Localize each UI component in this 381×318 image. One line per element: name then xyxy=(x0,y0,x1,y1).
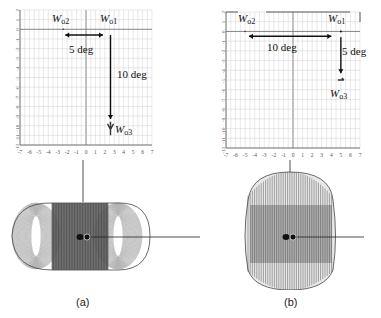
y-tick-label: 2 xyxy=(221,11,226,14)
x-tick-label: -6 xyxy=(27,149,32,155)
y-tick-label: -12 xyxy=(15,144,20,151)
label-5-deg: 5 deg xyxy=(69,43,94,55)
x-tick-label: -3 xyxy=(262,152,267,158)
y-tick-label: -7 xyxy=(15,95,20,100)
center-eye-icon xyxy=(283,234,290,240)
y-tick-label: 0 xyxy=(221,30,226,33)
x-tick-label: -5 xyxy=(37,149,42,155)
label-10-deg: 10 deg xyxy=(117,68,147,80)
y-tick-label: -12 xyxy=(221,147,226,154)
x-tick-label: -2 xyxy=(272,152,277,158)
x-tick-label: 1 xyxy=(301,152,304,158)
center-eye-icon xyxy=(77,234,84,240)
y-tick-label: 0 xyxy=(15,28,20,31)
grid-plot-b: -7-6-5-4-3-2-101234567210-1-2-3-4-5-6-7-… xyxy=(190,0,381,160)
arrowhead-icon xyxy=(108,115,113,119)
y-tick-label: -2 xyxy=(221,49,226,54)
y-tick-label: -3 xyxy=(221,59,226,64)
x-tick-label: -5 xyxy=(243,152,248,158)
label-wo2: Wo2 xyxy=(52,12,69,26)
barrel-center-band xyxy=(250,205,332,263)
label-wo3: Wo3 xyxy=(330,87,347,101)
x-tick-label: -6 xyxy=(233,152,238,158)
panel-a-shape xyxy=(0,160,190,290)
caption-b: (b) xyxy=(284,296,297,308)
y-tick-label: -11 xyxy=(15,134,20,141)
y-tick-label: -9 xyxy=(15,115,20,120)
x-tick-label: 0 xyxy=(292,152,295,158)
x-tick-label: 3 xyxy=(113,149,116,155)
center-eye-icon xyxy=(84,234,90,240)
x-tick-label: 6 xyxy=(141,149,144,155)
center-eye-icon xyxy=(290,234,296,240)
tall-barrel-render xyxy=(190,160,381,290)
y-tick-label: -5 xyxy=(221,79,226,84)
y-tick-label: -9 xyxy=(221,117,226,122)
arrowhead-icon xyxy=(338,69,343,73)
y-tick-label: 2 xyxy=(15,9,20,12)
arrowhead-icon xyxy=(249,34,253,39)
label-5-deg: 5 deg xyxy=(342,45,367,57)
y-tick-label: -6 xyxy=(221,88,226,93)
label-wo3: Wo3 xyxy=(115,123,132,137)
x-tick-label: -4 xyxy=(46,149,51,155)
x-tick-label: 7 xyxy=(359,152,362,158)
y-tick-label: -10 xyxy=(221,127,226,134)
x-tick-label: 2 xyxy=(103,149,106,155)
y-tick-label: -10 xyxy=(15,124,20,131)
panel-a-grid: -7-6-5-4-3-2-101234567210-1-2-3-4-5-6-7-… xyxy=(0,0,190,160)
panel-b-shape xyxy=(190,160,381,290)
panel-b-grid: -7-6-5-4-3-2-101234567210-1-2-3-4-5-6-7-… xyxy=(190,0,381,160)
x-tick-label: -1 xyxy=(281,152,286,158)
label-wo1: Wo1 xyxy=(328,12,345,26)
y-tick-label: -11 xyxy=(221,137,226,144)
label-10-deg: 10 deg xyxy=(267,41,297,53)
y-tick-label: -5 xyxy=(15,76,20,81)
x-tick-label: 4 xyxy=(330,152,333,158)
x-tick-label: 1 xyxy=(94,149,97,155)
x-tick-label: -3 xyxy=(55,149,60,155)
x-tick-label: 5 xyxy=(132,149,135,155)
caption-a: (a) xyxy=(76,296,89,308)
y-tick-label: -3 xyxy=(15,57,20,62)
wo3-marker-icon xyxy=(108,122,114,136)
x-tick-label: 4 xyxy=(122,149,125,155)
arrowhead-icon xyxy=(99,32,103,37)
x-tick-label: 7 xyxy=(151,149,154,155)
y-tick-label: 1 xyxy=(15,18,20,21)
arrowhead-icon xyxy=(327,34,331,39)
y-tick-label: -4 xyxy=(15,66,20,71)
y-tick-label: -7 xyxy=(221,98,226,103)
x-tick-label: 3 xyxy=(320,152,323,158)
x-tick-label: 5 xyxy=(339,152,342,158)
y-tick-label: -2 xyxy=(15,47,20,52)
y-tick-label: 1 xyxy=(221,20,226,23)
y-tick-label: -8 xyxy=(15,105,20,110)
x-tick-label: 0 xyxy=(85,149,88,155)
label-wo2: Wo2 xyxy=(238,12,255,26)
x-tick-label: -1 xyxy=(74,149,79,155)
x-tick-label: -4 xyxy=(252,152,257,158)
x-tick-label: 6 xyxy=(349,152,352,158)
y-tick-label: -4 xyxy=(221,69,226,74)
y-tick-label: -1 xyxy=(15,37,20,42)
label-wo1: Wo1 xyxy=(100,12,117,26)
y-tick-label: -6 xyxy=(15,86,20,91)
y-tick-label: -1 xyxy=(221,40,226,45)
x-tick-label: 2 xyxy=(311,152,314,158)
x-tick-label: -2 xyxy=(65,149,70,155)
grid-plot-a: -7-6-5-4-3-2-101234567210-1-2-3-4-5-6-7-… xyxy=(0,0,190,160)
y-tick-label: -8 xyxy=(221,108,226,113)
wide-torus-render xyxy=(0,160,190,290)
